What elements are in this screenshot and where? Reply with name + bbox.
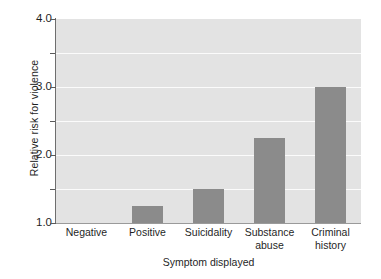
gridline [56,53,361,54]
x-tick-label-line: abuse [239,239,300,252]
x-tick-label-line: Positive [117,226,178,239]
x-tick-label: Negative [56,226,117,239]
x-tick-label-line: history [300,239,361,252]
y-tick-mark-major [50,87,56,88]
y-tick-mark-major [50,155,56,156]
y-tick-mark-major [50,223,56,224]
y-tick-label: 4.0 [20,13,52,25]
y-tick-mark-minor [50,53,55,54]
bar [193,189,224,223]
x-tick-label: Criminalhistory [300,226,361,251]
y-tick-mark-minor [50,189,55,190]
bar-chart-figure: Relative risk for violence 1.02.03.04.0 … [0,0,381,279]
x-tick-label: Positive [117,226,178,239]
bar [254,138,285,223]
y-axis-tick-labels: 1.02.03.04.0 [20,0,52,279]
y-tick-label: 2.0 [20,149,52,161]
y-tick-label: 3.0 [20,81,52,93]
x-tick-label: Substanceabuse [239,226,300,251]
x-axis-tick-labels: NegativePositiveSuicidalitySubstanceabus… [56,226,361,260]
x-tick-label: Suicidality [178,226,239,239]
plot-area [56,19,361,223]
y-tick-mark-major [50,19,56,20]
y-tick-label: 1.0 [20,217,52,229]
x-tick-label-line: Substance [239,226,300,239]
x-tick-label-line: Criminal [300,226,361,239]
bar [132,206,163,223]
x-axis-title: Symptom displayed [56,256,361,268]
x-tick-label-line: Suicidality [178,226,239,239]
y-tick-mark-minor [50,121,55,122]
x-axis-baseline [55,223,361,224]
x-tick-label-line: Negative [56,226,117,239]
bar [315,87,346,223]
